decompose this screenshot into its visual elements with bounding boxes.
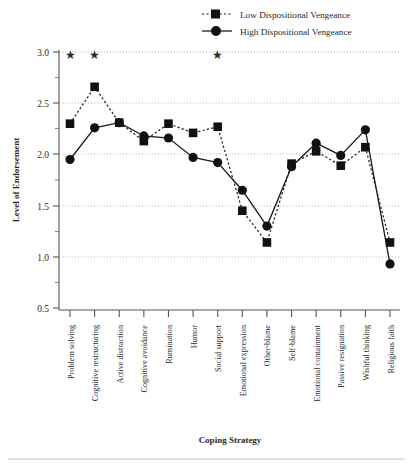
x-category-label: Emotional containment (313, 324, 322, 401)
data-point-low (189, 129, 198, 138)
y-tick-label-1-0: 1.0 (37, 253, 49, 263)
x-category-label: Cognitive restructuring (91, 325, 100, 401)
data-point-high (238, 186, 247, 195)
plot-area: ★★★ (65, 48, 395, 268)
legend-label-low: Low Dispositional Vengeance (240, 10, 350, 20)
coping-strategy-line-chart: Low Dispositional Vengeance High Disposi… (0, 0, 413, 465)
data-point-low (90, 83, 99, 92)
y-tick-label-1-5: 1.5 (37, 202, 49, 212)
series-line-high (70, 123, 390, 264)
data-point-high (385, 259, 394, 268)
data-point-high (262, 221, 271, 230)
x-category-label: Other-blame (263, 325, 272, 367)
data-point-low (386, 238, 395, 247)
y-axis: 3.0 2.5 2.0 1.5 1.0 0.5 Level of Endorse… (11, 48, 59, 314)
y-tick-label-2-0: 2.0 (37, 150, 49, 160)
data-point-high (188, 153, 197, 162)
y-axis-title: Level of Endorsement (11, 138, 21, 223)
data-point-high (164, 133, 173, 142)
data-point-low (238, 206, 247, 215)
significance-star-icon: ★ (89, 48, 100, 62)
x-category-label: Social support (214, 324, 223, 372)
series-markers-high (65, 118, 394, 269)
significance-star-markers: ★★★ (65, 48, 224, 62)
data-point-low (361, 143, 370, 152)
x-category-label: Cognitive avoidance (140, 325, 149, 393)
x-category-label: Humor (190, 325, 199, 348)
chart-legend: Low Dispositional Vengeance High Disposi… (202, 10, 352, 37)
gridlines (59, 52, 400, 257)
x-category-label: Wishful thinking (362, 325, 371, 380)
legend-item-low: Low Dispositional Vengeance (202, 10, 350, 20)
data-point-low (336, 161, 345, 170)
data-point-low (263, 238, 272, 247)
significance-star-icon: ★ (65, 48, 76, 62)
data-point-high (213, 158, 222, 167)
y-tick-label-0-5: 0.5 (37, 304, 49, 314)
legend-label-high: High Dispositional Vengeance (240, 27, 352, 37)
x-category-label: Self-blame (288, 325, 297, 361)
x-category-label: Religious faith (387, 325, 396, 373)
x-category-label: Rumination (165, 325, 174, 364)
x-axis-title: Coping Strategy (199, 435, 262, 445)
x-category-label: Problem solving (67, 325, 76, 379)
x-axis-ticks (70, 310, 390, 317)
data-point-low (164, 119, 173, 128)
data-point-high (90, 123, 99, 132)
legend-swatch-low-marker (211, 10, 220, 19)
x-category-label: Active distraction (116, 325, 125, 383)
data-point-high (287, 162, 296, 171)
data-point-low (213, 122, 222, 131)
data-point-high (336, 151, 345, 160)
significance-star-icon: ★ (212, 48, 223, 62)
x-axis-category-labels: Problem solvingCognitive restructuringAc… (67, 324, 396, 401)
x-category-label: Passive resignation (337, 325, 346, 388)
legend-item-high: High Dispositional Vengeance (202, 26, 352, 37)
data-point-high (65, 155, 74, 164)
data-point-high (115, 118, 124, 127)
x-axis: Problem solvingCognitive restructuringAc… (59, 310, 400, 445)
data-point-high (361, 125, 370, 134)
data-point-low (312, 147, 321, 156)
data-point-high (139, 131, 148, 140)
x-category-label: Emotional expression (239, 325, 248, 396)
data-point-low (66, 119, 75, 128)
y-tick-label-2-5: 2.5 (37, 99, 49, 109)
series-markers-low (66, 83, 395, 247)
figure-container: Low Dispositional Vengeance High Disposi… (0, 0, 413, 465)
y-tick-label-3-0: 3.0 (37, 48, 49, 58)
legend-swatch-high-marker (211, 26, 221, 36)
data-point-high (312, 139, 321, 148)
